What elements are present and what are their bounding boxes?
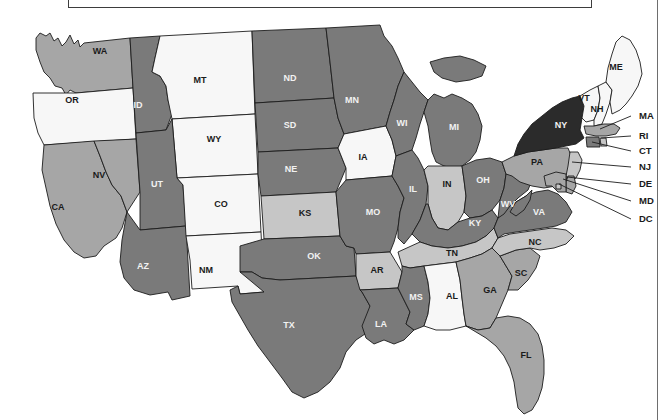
state-shape-MA[interactable] [584, 124, 620, 136]
state-shape-ND[interactable] [252, 28, 334, 103]
state-shape-AR[interactable] [356, 252, 402, 290]
callout-label-CT: CT [639, 145, 652, 156]
callout-label-DC: DC [639, 213, 653, 224]
state-shape-MD[interactable] [544, 172, 566, 192]
state-shape-MO[interactable] [336, 176, 404, 254]
callout-label-NJ: NJ [639, 161, 651, 172]
callout-label-RI: RI [639, 130, 649, 141]
us-choropleth-map-figure: WAORCANVIDMTWYUTAZCONMNDSDNEKSOKTXMNIAMO… [0, 0, 666, 420]
state-shape-ME[interactable] [606, 36, 642, 114]
state-shape-WA[interactable] [36, 33, 133, 95]
us-map-svg: WAORCANVIDMTWYUTAZCONMNDSDNEKSOKTXMNIAMO… [0, 0, 666, 420]
state-shape-WY[interactable] [172, 114, 258, 178]
state-shape-SD[interactable] [255, 98, 344, 152]
callout-label-MD: MD [639, 195, 654, 206]
state-shape-OK[interactable] [240, 236, 356, 280]
state-shape-IA[interactable] [338, 126, 396, 180]
state-shape-MI[interactable] [424, 56, 486, 168]
state-shape-KS[interactable] [261, 192, 340, 239]
callout-label-MA: MA [639, 110, 654, 121]
callout-label-DE: DE [639, 178, 652, 189]
state-shape-FL[interactable] [466, 316, 544, 414]
state-shape-NY[interactable] [514, 96, 584, 156]
state-shape-OR[interactable] [33, 88, 136, 145]
state-shapes-group [33, 25, 642, 414]
state-shape-CO[interactable] [177, 174, 261, 236]
state-shape-NE[interactable] [258, 148, 346, 196]
